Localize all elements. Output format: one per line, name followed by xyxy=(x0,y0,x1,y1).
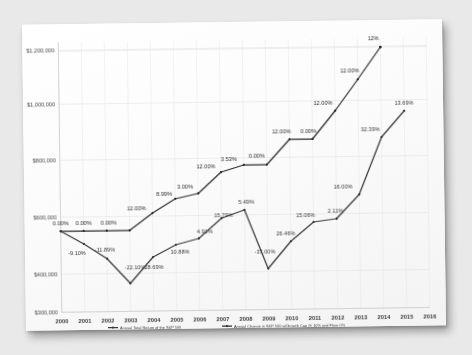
data-label: 4.91% xyxy=(197,228,213,234)
x-tick-label: 2003 xyxy=(124,317,138,323)
data-label: 0.00% xyxy=(300,128,316,134)
legend-label: Annual Change in S&P 500 w/Growth Cap @ … xyxy=(234,322,346,328)
y-tick-label: $1,000,000 xyxy=(27,101,55,107)
x-tick-label: 2012 xyxy=(331,315,344,321)
x-tick-label: 2009 xyxy=(262,315,276,321)
data-label: 3.53% xyxy=(221,156,237,162)
data-label-apex: 12% xyxy=(368,35,379,41)
data-label: 28.69% xyxy=(145,264,164,270)
data-label: -11.89% xyxy=(95,247,116,253)
data-label: 32.39% xyxy=(361,126,380,132)
data-label: 0.00% xyxy=(249,153,265,159)
data-label: 8.99% xyxy=(156,191,172,197)
x-tick-label: 2008 xyxy=(239,316,253,322)
scanned-chart-page: $1,200,000 $1,000,000 $800,000 $600,000 … xyxy=(22,19,446,330)
y-axis xyxy=(58,42,62,312)
data-label: 16.00% xyxy=(334,183,353,189)
x-tick-label: 2005 xyxy=(170,317,184,323)
chart-legend: Annual Total Return of the S&P 500 Annua… xyxy=(108,322,346,330)
x-tick-label: 2006 xyxy=(193,316,207,322)
x-tick-label: 2002 xyxy=(101,318,114,324)
data-label: 0.00% xyxy=(76,220,92,226)
data-label: -22.10% xyxy=(125,264,146,270)
data-label: 12.00% xyxy=(314,100,333,106)
sp500-line-path xyxy=(59,111,406,285)
y-axis-tick-labels: $1,200,000 $1,000,000 $800,000 $600,000 … xyxy=(26,47,58,315)
y-tick-label: $400,000 xyxy=(34,271,57,277)
x-tick-label: 2004 xyxy=(147,317,161,323)
x-tick-label: 2015 xyxy=(400,314,414,320)
data-label: 15.06% xyxy=(296,212,315,218)
x-tick-label: 2001 xyxy=(78,318,92,324)
vertical-gridlines xyxy=(58,37,430,312)
data-label: 26.46% xyxy=(276,230,295,236)
data-label: 12.00% xyxy=(272,128,291,134)
data-label: -9.10% xyxy=(68,250,86,256)
data-label: 13.69% xyxy=(395,100,414,106)
x-tick-label: 2011 xyxy=(309,315,322,321)
data-label: 0.00% xyxy=(101,220,117,226)
data-label: 10.88% xyxy=(170,249,189,255)
y-tick-label: $300,000 xyxy=(34,309,57,315)
data-label: 12.00% xyxy=(127,205,146,211)
x-tick-label: 2010 xyxy=(285,315,298,321)
y-tick-label: $800,000 xyxy=(32,157,55,163)
data-label: 15.79% xyxy=(214,212,233,218)
legend-item-capped: Annual Change in S&P 500 w/Growth Cap @ … xyxy=(222,322,346,329)
data-label: 12.00% xyxy=(196,163,215,169)
data-label: 12.00% xyxy=(340,67,359,73)
series-sp500-line xyxy=(58,110,407,286)
x-tick-label: 2014 xyxy=(377,314,391,320)
data-label: -37.00% xyxy=(255,248,276,254)
sp500-line-markers xyxy=(58,110,407,286)
x-tick-label: 2000 xyxy=(55,318,68,324)
y-tick-label: $1,200,000 xyxy=(26,47,54,53)
data-label: 5.49% xyxy=(238,199,254,205)
capped-line-data-labels: 0.00% 0.00% 0.00% 12.00% 8.99% 3.00% 12.… xyxy=(50,35,381,226)
chart-canvas: $1,200,000 $1,000,000 $800,000 $600,000 … xyxy=(22,19,446,330)
x-tick-label: 2007 xyxy=(216,316,229,322)
legend-label: Annual Total Return of the S&P 500 xyxy=(120,324,182,330)
legend-item-sp500: Annual Total Return of the S&P 500 xyxy=(108,324,182,330)
data-label: 0.00% xyxy=(53,220,69,226)
x-tick-label: 2016 xyxy=(423,313,437,319)
data-label: 2.11% xyxy=(328,208,344,214)
x-tick-label: 2013 xyxy=(354,314,368,320)
line-chart-svg: $1,200,000 $1,000,000 $800,000 $600,000 … xyxy=(22,19,446,330)
data-label: 3.00% xyxy=(177,184,193,190)
